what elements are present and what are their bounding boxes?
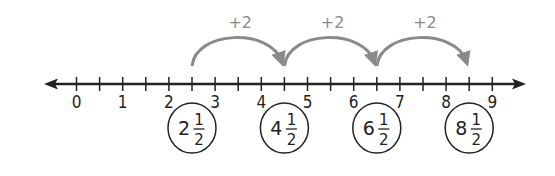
whole-number: 8 <box>455 117 467 139</box>
jump-arcs: +2+2+2 <box>192 13 466 66</box>
jump-label: +2 <box>321 13 345 32</box>
denominator: 2 <box>194 131 204 149</box>
tick-label: 7 <box>395 92 405 112</box>
tick-label: 8 <box>441 92 451 112</box>
whole-number: 2 <box>178 117 190 139</box>
circle-outline <box>260 103 308 153</box>
jump-arc <box>377 38 466 66</box>
circled-mixed-number: 412 <box>260 103 308 153</box>
circle-outline <box>445 103 493 153</box>
numerator: 1 <box>471 111 481 129</box>
numerator: 1 <box>379 111 389 129</box>
tick-label: 6 <box>349 92 359 112</box>
jump-label: +2 <box>413 13 437 32</box>
denominator: 2 <box>287 131 297 149</box>
circle-outline <box>353 103 401 153</box>
denominator: 2 <box>379 131 389 149</box>
tick-label: 5 <box>303 92 313 112</box>
circled-mixed-number: 812 <box>445 103 493 153</box>
whole-number: 4 <box>270 117 282 139</box>
circled-mixed-number: 212 <box>168 103 216 153</box>
whole-number: 6 <box>363 117 375 139</box>
jump-arc <box>192 38 281 66</box>
tick-label: 2 <box>164 92 174 112</box>
jump-arc <box>284 38 373 66</box>
numerator: 1 <box>287 111 297 129</box>
tick-label: 1 <box>118 92 128 112</box>
circled-mixed-number: 612 <box>353 103 401 153</box>
number-line-diagram: 0123456789 +2+2+2 212412612812 <box>0 0 555 176</box>
tick-label: 4 <box>256 92 266 112</box>
jump-label: +2 <box>228 13 252 32</box>
denominator: 2 <box>471 131 481 149</box>
tick-labels: 0123456789 <box>72 92 498 112</box>
tick-label: 3 <box>210 92 220 112</box>
numerator: 1 <box>194 111 204 129</box>
tick-label: 9 <box>487 92 497 112</box>
circle-outline <box>168 103 216 153</box>
tick-label: 0 <box>72 92 82 112</box>
